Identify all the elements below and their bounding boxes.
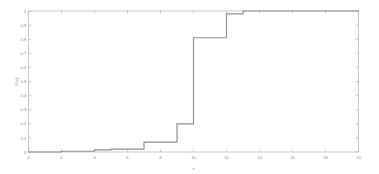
x-tick-label: 14 [257,155,262,160]
x-axis-tick-labels: 02468101214161820 [27,155,361,160]
x-tick-label: 2 [60,155,63,160]
y-tick-label: 0.9 [20,23,26,28]
y-axis-tick-labels: 00.10.20.30.40.50.60.70.80.91 [20,9,26,155]
y-tick-label: 0.6 [20,65,26,70]
x-tick-label: 20 [356,155,361,160]
y-tick-label: 0.8 [20,37,26,42]
x-tick-label: 18 [323,155,328,160]
x-tick-label: 6 [126,155,129,160]
x-tick-label: 10 [191,155,196,160]
x-tick-label: 0 [27,155,30,160]
x-tick-label: 12 [224,155,229,160]
y-tick-label: 0.5 [20,79,26,84]
y-axis-label: F(x) [14,77,19,85]
x-axis-label: x [192,166,195,171]
x-tick-label: 4 [93,155,96,160]
y-tick-label: 0.1 [20,136,26,141]
y-tick-label: 0.3 [20,107,26,112]
chart-plot: 02468101214161820 00.10.20.30.40.50.60.7… [0,0,379,174]
x-tick-label: 8 [159,155,162,160]
figure-container: 02468101214161820 00.10.20.30.40.50.60.7… [0,0,379,174]
y-tick-label: 0.4 [20,93,26,98]
x-tick-label: 16 [290,155,295,160]
y-tick-label: 0.2 [20,121,26,126]
y-tick-label: 1 [24,9,27,14]
y-tick-label: 0.7 [20,51,26,56]
